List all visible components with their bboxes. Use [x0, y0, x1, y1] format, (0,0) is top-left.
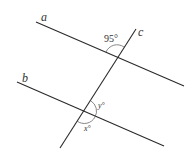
diagram: a b c 95° y° x°: [0, 0, 192, 158]
label-y: y°: [97, 101, 106, 110]
angle-arc-95: [106, 45, 124, 52]
label-a: a: [41, 10, 47, 24]
label-c: c: [138, 25, 144, 39]
line-c: [60, 29, 136, 148]
label-x: x°: [83, 124, 92, 133]
label-95: 95°: [104, 33, 118, 44]
line-b: [17, 82, 164, 146]
label-b: b: [22, 71, 28, 85]
line-a: [36, 22, 184, 86]
